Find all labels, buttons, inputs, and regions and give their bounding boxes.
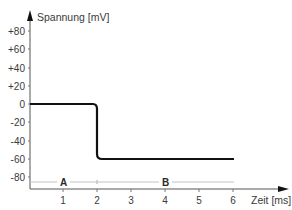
y-tick-label: +60: [8, 44, 25, 55]
y-tick-label: +80: [8, 26, 25, 37]
voltage-time-chart: +80 +60 +40 +20 0 -20 -40 -60 -80 1 2 3 …: [0, 0, 292, 210]
x-tick-label: 1: [60, 195, 66, 206]
x-tick-label: 4: [162, 195, 168, 206]
y-tick-label: 0: [19, 99, 25, 110]
voltage-curve: [30, 104, 234, 159]
y-axis-title: Spannung [mV]: [37, 11, 109, 23]
y-axis-arrow-icon: [27, 10, 33, 21]
region-label-b: B: [162, 177, 169, 188]
x-tick-label: 3: [128, 195, 134, 206]
y-tick-labels: +80 +60 +40 +20 0 -20 -40 -60 -80: [8, 26, 25, 183]
x-tick-label: 5: [196, 195, 202, 206]
y-tick-label: -80: [11, 172, 26, 183]
x-tick-label: 2: [94, 195, 100, 206]
x-tick-label: 6: [230, 195, 236, 206]
y-tick-label: +40: [8, 63, 25, 74]
region-label-a: A: [60, 177, 67, 188]
y-tick-label: -60: [11, 154, 26, 165]
x-axis-title: Zeit [ms]: [251, 194, 291, 206]
y-tick-label: -20: [11, 117, 26, 128]
y-tick-label: +20: [8, 81, 25, 92]
x-axis-arrow-icon: [278, 186, 289, 192]
x-tick-labels: 1 2 3 4 5 6: [60, 195, 236, 206]
y-tick-label: -40: [11, 136, 26, 147]
